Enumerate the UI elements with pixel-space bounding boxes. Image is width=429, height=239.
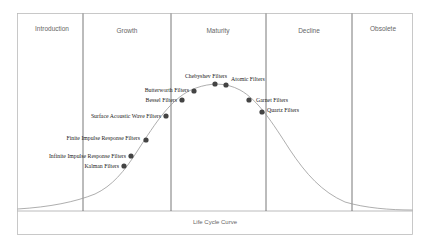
point-iir-filters[interactable]: [128, 153, 133, 158]
footer-label: Life Cycle Curve: [193, 219, 238, 225]
label-garnet-filters: Garnet Filters: [256, 97, 289, 103]
label-bessel-filters: Bessel Filters: [146, 97, 178, 103]
label-butterworth-filters: Butterworth Filters: [145, 87, 190, 93]
point-butterworth-filters[interactable]: [191, 88, 196, 93]
point-atomic-filters[interactable]: [223, 82, 228, 87]
stage-label-maturity: Maturity: [206, 27, 230, 35]
stage-label-introduction: Introduction: [35, 25, 69, 32]
point-garnet-filters[interactable]: [246, 97, 251, 102]
label-chebyshev-filters: Chebyshev Filters: [185, 73, 228, 79]
point-chebyshev-filters[interactable]: [212, 81, 217, 86]
point-saw-filters[interactable]: [163, 113, 168, 118]
label-kalman-filters: Kalman Filters: [84, 163, 119, 169]
label-iir-filters: Infinite Impulse Response Filters: [49, 153, 127, 159]
stage-label-decline: Decline: [298, 27, 320, 34]
diagram-frame: [18, 14, 413, 235]
life-cycle-diagram: Introduction Growth Maturity Decline Obs…: [0, 0, 429, 239]
point-fir-filters[interactable]: [143, 137, 148, 142]
label-fir-filters: Finite Impulse Response Filters: [66, 135, 140, 141]
stage-label-obsolete: Obsolete: [370, 25, 396, 32]
label-quartz-filters: Quartz Filters: [267, 107, 300, 113]
stage-label-growth: Growth: [117, 27, 138, 34]
point-kalman-filters[interactable]: [121, 163, 126, 168]
point-bessel-filters[interactable]: [179, 97, 184, 102]
label-saw-filters: Surface Acoustic Wave Filters: [91, 113, 162, 119]
label-atomic-filters: Atomic Filters: [231, 76, 265, 82]
point-quartz-filters[interactable]: [259, 109, 264, 114]
